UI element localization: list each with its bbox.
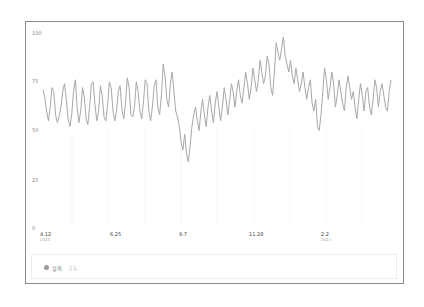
legend-item-second[interactable]: 고두 (68, 264, 78, 271)
legend: 실제 고두 (31, 254, 397, 279)
legend-marker-icon (44, 265, 49, 270)
x-tick-9-7: 9.7 (179, 231, 187, 237)
x-tick-6-25: 6.25 (110, 231, 121, 237)
x-tick-11-28: 11.28 (249, 231, 263, 237)
x-year-2021: 2021 (321, 237, 331, 242)
legend-item-actual[interactable]: 실제 (52, 264, 62, 271)
x-year-2020: 2020 (40, 237, 50, 242)
